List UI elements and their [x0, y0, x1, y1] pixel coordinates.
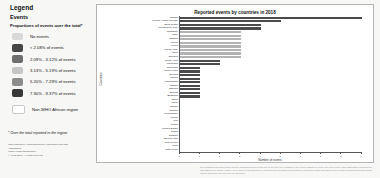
- map-disclaimer: The boundaries and names shown and the d…: [200, 166, 372, 175]
- country-label: Ethiopia: [100, 88, 180, 90]
- country-label: Gabon: [100, 124, 180, 126]
- x-tick-label: 2: [215, 155, 223, 157]
- legend-swatch: [12, 33, 23, 41]
- country-label: Cabo Verde: [100, 149, 180, 151]
- legend-panel: Legend Events Proportions of events over…: [0, 0, 97, 178]
- country-bar: [180, 88, 200, 90]
- country-bar: [180, 35, 241, 37]
- country-label: Sierra Leone: [100, 70, 180, 72]
- bar-plot: UgandaCentral African RepublicSouth Suda…: [179, 16, 362, 153]
- nonwho-swatch: [12, 105, 25, 115]
- country-bar: [180, 45, 241, 47]
- x-tick-label: 6: [296, 155, 304, 157]
- legend-footnote: * Over the total reported in the region: [8, 131, 67, 135]
- country-bar: [180, 95, 200, 97]
- country-bar: [180, 24, 261, 26]
- country-label: Liberia: [100, 42, 180, 44]
- country-label: Côte d'Ivoire: [100, 142, 180, 144]
- country-bar: [180, 85, 200, 87]
- legend-caption: Proportions of events over the total*: [10, 23, 82, 28]
- country-label: Malawi: [100, 117, 180, 119]
- legend-item: 2.09% - 3.12% of events: [12, 54, 76, 65]
- legend-swatch: [12, 67, 23, 75]
- country-bar: [180, 78, 200, 80]
- country-bar: [180, 49, 241, 51]
- x-tick-label: 8: [337, 155, 345, 157]
- legend-swatch: [12, 55, 23, 63]
- country-bar: [180, 27, 261, 29]
- country-bar: [180, 56, 241, 58]
- legend-item: < 2.08% of events: [12, 42, 76, 53]
- legend-item-label: 7.30% - 9.37% of events: [30, 91, 76, 96]
- legend-subtitle: Events: [10, 14, 28, 20]
- country-bar: [180, 17, 362, 19]
- legend-item-non-who: Non-WHO African region: [12, 104, 78, 115]
- country-label: Benin: [100, 99, 180, 101]
- country-bar: [180, 67, 200, 69]
- legend-item: 3.13% - 5.19% of events: [12, 65, 76, 76]
- country-bar: [180, 60, 220, 62]
- country-bar: [180, 52, 241, 54]
- country-label: Botswana: [100, 95, 180, 97]
- country-label: Zimbabwe: [100, 31, 180, 33]
- legend-item: No events: [12, 31, 76, 42]
- country-bar: [180, 63, 220, 65]
- chart-card: Reported events by countries in 2018 Cou…: [96, 4, 374, 163]
- x-tick-label: 7: [317, 155, 325, 157]
- country-bar: [180, 74, 200, 76]
- country-label: Guinea-Bissau: [100, 128, 180, 130]
- country-label: Madagascar: [100, 81, 180, 83]
- country-bar: [180, 20, 281, 22]
- x-tick-label: 1: [195, 155, 203, 157]
- x-tick-label: 9: [357, 155, 365, 157]
- country-label: Mozambique: [100, 113, 180, 115]
- x-tick-label: 4: [256, 155, 264, 157]
- x-axis-title: Number of events: [179, 158, 361, 162]
- x-tick-label: 3: [236, 155, 244, 157]
- country-label: Zambia: [100, 106, 180, 108]
- country-label: Tanzania: [100, 56, 180, 58]
- country-bar: [180, 42, 241, 44]
- legend-item-label: No events: [30, 34, 49, 39]
- x-tick-label: 5: [276, 155, 284, 157]
- legend-item-label: 3.13% - 5.19% of events: [30, 68, 76, 73]
- legend-item-label: 5.20% - 7.29% of events: [30, 79, 76, 84]
- legend-credits: Map production: Health Emergency Informa…: [8, 143, 68, 158]
- country-bar: [180, 70, 200, 72]
- country-label: Senegal: [100, 74, 180, 76]
- country-bar: [180, 81, 200, 83]
- country-bar: [180, 38, 241, 40]
- legend-swatch: [12, 78, 23, 86]
- country-label: Congo, Rep.: [100, 49, 180, 51]
- country-label: Namibia: [100, 38, 180, 40]
- legend-title: Legend: [10, 4, 33, 11]
- country-label: Niger: [100, 34, 180, 36]
- legend-items: No events< 2.08% of events2.09% - 3.12% …: [12, 31, 76, 99]
- legend-item-label: Non-WHO African region: [32, 107, 78, 112]
- country-bar: [180, 31, 241, 33]
- country-label: Gambia: [100, 85, 180, 87]
- country-label: Mali: [100, 120, 180, 122]
- country-label: Ghana: [100, 131, 180, 133]
- legend-swatch: [12, 89, 23, 97]
- legend-item-label: < 2.08% of events: [30, 45, 64, 50]
- country-label: Algeria: [100, 102, 180, 104]
- legend-item: 7.30% - 9.37% of events: [12, 87, 76, 98]
- chart-title: Reported events by countries in 2018: [97, 10, 373, 15]
- legend-item-label: 2.09% - 3.12% of events: [30, 57, 76, 62]
- credit-line: © WHO 2018. All rights reserved.: [8, 154, 68, 158]
- legend-swatch: [12, 44, 23, 52]
- x-tick-label: 0: [175, 155, 183, 157]
- legend-item: 5.20% - 7.29% of events: [12, 76, 76, 87]
- country-bar: [180, 92, 200, 94]
